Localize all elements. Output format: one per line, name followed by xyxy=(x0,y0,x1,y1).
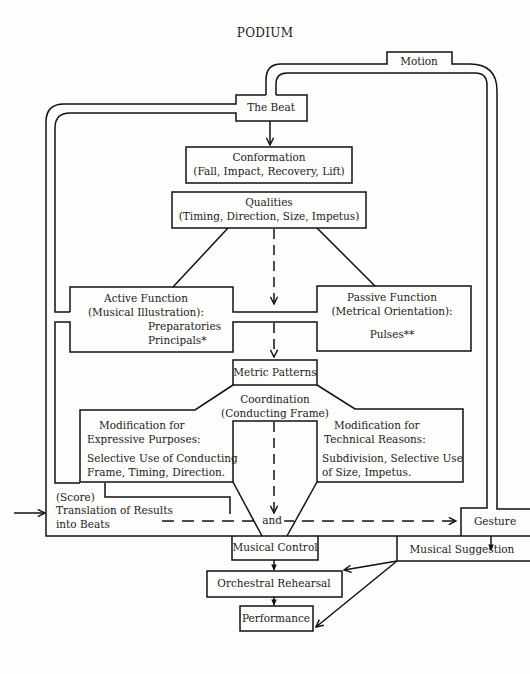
musical-suggestion-label: Musical Suggestion xyxy=(410,543,515,557)
score-line2: Translation of Results xyxy=(56,504,173,518)
gesture-label: Gesture xyxy=(474,515,516,529)
conformation-subtitle: (Fall, Impact, Recovery, Lift) xyxy=(193,165,344,179)
coordination-title: Coordination xyxy=(240,393,309,407)
mod-expressive-title: Modification for xyxy=(99,419,185,433)
performance-label: Performance xyxy=(242,612,310,626)
musical-control-label: Musical Control xyxy=(232,541,317,555)
mod-technical-line1: Subdivision, Selective Use xyxy=(322,452,463,466)
beat-box xyxy=(266,64,281,95)
mod-expressive-line2: Frame, Timing, Direction. xyxy=(87,466,225,480)
mod-expressive-line1: Selective Use of Conducting xyxy=(87,452,238,466)
active-function-item-preparatories: Preparatories xyxy=(148,320,221,334)
passive-function-title: Passive Function xyxy=(347,291,437,305)
conformation-title: Conformation xyxy=(232,151,305,165)
metric-patterns-label: Metric Patterns xyxy=(233,366,316,380)
motion-label: Motion xyxy=(400,55,438,69)
orchestral-rehearsal-label: Orchestral Rehearsal xyxy=(217,577,330,591)
active-function-item-principals: Principals* xyxy=(148,334,206,348)
active-function-subtitle: (Musical Illustration): xyxy=(88,306,204,320)
mod-technical-subtitle: Technical Reasons: xyxy=(324,433,426,447)
qualities-title: Qualities xyxy=(245,196,293,210)
score-line1: (Score) xyxy=(56,491,95,505)
diagram-title: PODIUM xyxy=(237,27,293,41)
active-function-title: Active Function xyxy=(104,292,188,306)
mod-technical-title: Modification for xyxy=(334,419,420,433)
passive-function-subtitle: (Metrical Orientation): xyxy=(331,305,452,319)
mod-expressive-subtitle: Expressive Purposes: xyxy=(87,433,201,447)
passive-function-item-pulses: Pulses** xyxy=(370,328,415,342)
and-label: and xyxy=(260,514,284,528)
qualities-subtitle: (Timing, Direction, Size, Impetus) xyxy=(179,210,360,224)
the-beat-label: The Beat xyxy=(247,101,295,115)
coordination-subtitle: (Conducting Frame) xyxy=(221,407,329,421)
mod-technical-line2: of Size, Impetus. xyxy=(322,466,411,480)
score-line3: into Beats xyxy=(56,518,110,532)
